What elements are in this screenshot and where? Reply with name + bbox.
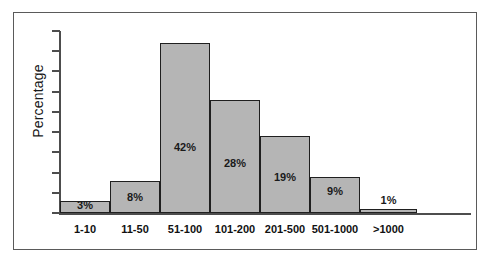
bar-value-label: 42% [160, 141, 210, 153]
y-axis-tick [52, 50, 60, 52]
bar-51-100 [160, 43, 210, 213]
bar-value-label: 19% [260, 171, 310, 183]
bar-value-label: 3% [60, 199, 110, 211]
y-axis-tick [52, 30, 60, 32]
y-axis-tick [52, 212, 60, 214]
y-axis-tick [52, 91, 60, 93]
y-axis-tick [52, 172, 60, 174]
bar-value-label: 28% [210, 157, 260, 169]
y-axis-line [59, 31, 61, 215]
y-axis-title: Percentage [30, 51, 46, 151]
bar-value-label: 9% [310, 185, 360, 197]
y-axis-tick [52, 70, 60, 72]
y-axis-tick [52, 131, 60, 133]
bar--1000 [360, 209, 417, 213]
bar-value-label: 8% [110, 191, 160, 203]
screenshot-root: Percentage 3%8%42%28%19%9%1% 1-1011-5051… [0, 0, 494, 265]
bar-value-label: 1% [360, 194, 417, 206]
x-axis-label: >1000 [354, 223, 423, 235]
plot-area: Percentage 3%8%42%28%19%9%1% 1-1011-5051… [14, 13, 478, 251]
x-axis-line [59, 213, 471, 215]
y-axis-tick [52, 192, 60, 194]
y-axis-tick [52, 111, 60, 113]
figure-frame: Percentage 3%8%42%28%19%9%1% 1-1011-5051… [13, 12, 477, 250]
y-axis-tick [52, 151, 60, 153]
